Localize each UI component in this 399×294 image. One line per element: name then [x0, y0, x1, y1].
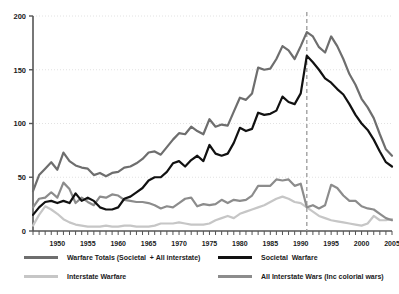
- y-tick-label-200: 200: [13, 12, 26, 21]
- x-tick-label-1975: 1975: [202, 240, 218, 247]
- x-tick-label-2000: 2000: [354, 240, 370, 247]
- legend-entry-interstate-warfare: Interstate Warfare: [24, 273, 126, 280]
- x-tick-label-1980: 1980: [232, 240, 248, 247]
- legend-label-all-interstate-wars: All Interstate Wars (Inc colorial wars): [261, 273, 384, 280]
- series-line-0: [33, 32, 392, 191]
- x-tick-label-1985: 1985: [263, 240, 279, 247]
- x-tick-label-1955: 1955: [80, 240, 96, 247]
- legend-label-interstate-warfare: Interstate Warfare: [67, 273, 126, 280]
- legend-label-societal-warfare: Societal Warfare: [261, 254, 318, 261]
- legend-entry-warfare-totals: Warfare Totals (Societal + All interstat…: [24, 254, 200, 261]
- legend-entry-societal-warfare: Societal Warfare: [218, 254, 318, 261]
- legend-entry-all-interstate-wars: All Interstate Wars (Inc colorial wars): [218, 273, 384, 280]
- x-tick-label-1990: 1990: [293, 240, 309, 247]
- line-chart-plot: 0501001502001950195519601965197019751980…: [0, 0, 399, 294]
- x-tick-label-1965: 1965: [141, 240, 157, 247]
- legend-swatch-all-interstate-wars: [218, 275, 252, 278]
- series-line-3: [33, 179, 392, 220]
- legend-swatch-warfare-totals: [24, 256, 58, 259]
- y-tick-label-100: 100: [13, 119, 26, 128]
- x-tick-label-2005: 2005: [384, 240, 399, 247]
- x-tick-label-1970: 1970: [171, 240, 187, 247]
- legend-swatch-societal-warfare: [218, 256, 252, 259]
- x-tick-label-1960: 1960: [110, 240, 126, 247]
- series-line-1: [33, 56, 392, 215]
- chart-container: 0501001502001950195519601965197019751980…: [0, 0, 399, 294]
- y-tick-label-50: 50: [18, 173, 26, 182]
- x-tick-label-1950: 1950: [50, 240, 66, 247]
- x-tick-label-1995: 1995: [323, 240, 339, 247]
- legend-label-warfare-totals: Warfare Totals (Societal + All interstat…: [67, 254, 200, 261]
- y-tick-label-0: 0: [22, 227, 26, 236]
- y-tick-label-150: 150: [13, 66, 26, 75]
- legend-swatch-interstate-warfare: [24, 275, 58, 278]
